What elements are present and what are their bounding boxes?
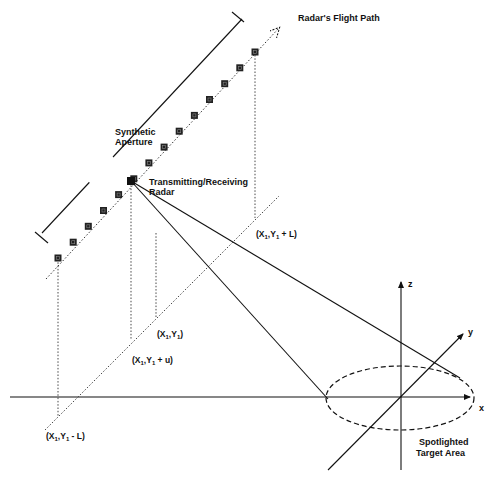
aperture-element <box>221 80 228 87</box>
point-minus-L-label: (X1,Y1 - L) <box>46 431 85 442</box>
radar-label-line2: Radar <box>149 187 175 197</box>
synthetic-aperture-label-line2: Aperture <box>115 137 153 147</box>
radar-transmitter <box>127 177 135 185</box>
flight-path-label: Radar's Flight Path <box>298 13 380 23</box>
aperture-element <box>206 96 213 103</box>
aperture-element <box>55 255 62 262</box>
y-axis-label: y <box>468 327 473 337</box>
beam-line-near <box>131 181 328 399</box>
point-plus-L-label: (X1,Y1 + L) <box>256 229 297 240</box>
aperture-element <box>191 112 198 119</box>
aperture-element <box>236 64 243 71</box>
aperture-element <box>70 239 77 246</box>
ground-track-line <box>45 196 279 430</box>
z-axis-label: z <box>408 279 413 289</box>
point-plus-u-label: (X1,Y1 + u) <box>132 355 173 366</box>
point-center-label: (X1,Y1) <box>157 329 183 340</box>
aperture-element <box>85 223 92 230</box>
aperture-element <box>145 159 152 166</box>
aperture-element <box>115 191 122 198</box>
radar-label-line1: Transmitting/Receiving <box>149 177 248 187</box>
aperture-element <box>161 144 168 151</box>
aperture-element <box>252 49 259 56</box>
bracket-label-gap <box>89 157 113 182</box>
aperture-element <box>176 128 183 135</box>
sar-diagram: Radar's Flight Path Synthetic Aperture T… <box>0 0 495 489</box>
target-area-label-line2: Target Area <box>416 448 466 458</box>
aperture-elements <box>55 49 259 262</box>
flight-path-line <box>46 28 279 279</box>
target-area-label-line1: Spotlighted <box>419 437 469 447</box>
synthetic-aperture-label-line1: Synthetic <box>115 127 156 137</box>
aperture-element <box>100 207 107 214</box>
x-axis-label: x <box>479 403 484 413</box>
